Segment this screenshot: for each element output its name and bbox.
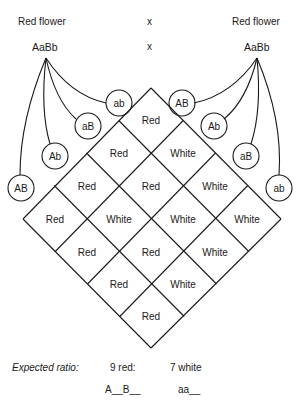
cell: Red bbox=[142, 115, 160, 126]
cell: Red bbox=[142, 311, 160, 322]
cell: Red bbox=[110, 279, 128, 290]
cell: Red bbox=[78, 247, 96, 258]
cell: Red bbox=[78, 181, 96, 192]
connector-left-ab bbox=[46, 58, 106, 103]
cell: White bbox=[202, 247, 228, 258]
ratio-white: 7 white bbox=[170, 362, 202, 373]
cell: Red bbox=[142, 247, 160, 258]
connector-right-Ab bbox=[224, 58, 257, 119]
connector-right-aB bbox=[251, 58, 259, 144]
cell: White bbox=[106, 214, 132, 225]
gamete-left-1: ab bbox=[113, 98, 125, 109]
white-genotype: aa__ bbox=[178, 384, 200, 395]
ratio-red: 9 red: bbox=[110, 362, 136, 373]
gamete-left-2: aB bbox=[82, 121, 95, 132]
ratio-label: Expected ratio: bbox=[12, 362, 79, 373]
gamete-right-3: aB bbox=[240, 151, 253, 162]
cell: White bbox=[170, 148, 196, 159]
gamete-left-4: AB bbox=[14, 183, 28, 194]
connector-left-aB bbox=[46, 58, 76, 119]
cell: Red bbox=[46, 214, 64, 225]
gamete-right-2: Ab bbox=[208, 121, 221, 132]
gamete-right-4: ab bbox=[273, 183, 285, 194]
cell: White bbox=[170, 279, 196, 290]
red-genotype: A__B__ bbox=[105, 384, 141, 395]
punnett-diagram: ab aB Ab AB AB Ab aB ab Red Red White Re… bbox=[0, 0, 302, 411]
cell: White bbox=[170, 214, 196, 225]
cell: Red bbox=[142, 181, 160, 192]
cell: Red bbox=[110, 148, 128, 159]
gamete-left-3: Ab bbox=[49, 151, 62, 162]
connector-right-ab bbox=[257, 58, 280, 175]
gamete-right-1: AB bbox=[175, 98, 189, 109]
cell: White bbox=[234, 214, 260, 225]
cell: White bbox=[202, 181, 228, 192]
connector-right-AB bbox=[194, 58, 257, 103]
